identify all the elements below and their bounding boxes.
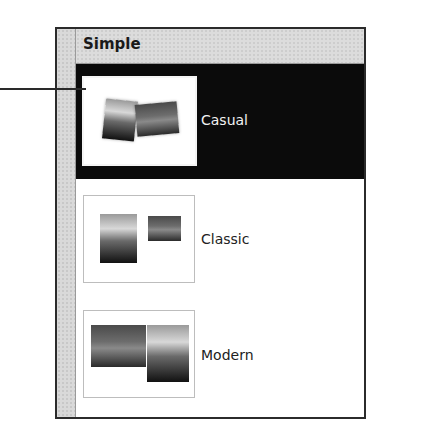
casual-layout-icon [82,76,197,166]
layout-item-label: Casual [201,112,248,128]
layout-item-modern[interactable]: Modern [76,295,364,415]
layout-item-classic[interactable]: Classic [76,179,364,295]
layout-item-label: Modern [201,347,254,363]
panel-header: Simple [76,29,364,64]
classic-layout-icon [83,195,195,283]
layout-item-casual[interactable]: Casual [76,64,364,179]
layout-item-label: Classic [201,231,249,247]
group-title: Simple [83,35,141,53]
modern-layout-icon [83,310,195,398]
callout-pointer-line [0,88,86,90]
layout-list: Casual Classic Modern [76,64,364,417]
layout-style-panel: Simple Casual Classic Modern [55,27,366,419]
